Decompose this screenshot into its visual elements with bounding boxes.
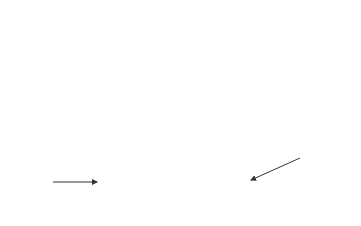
max-arrow: [251, 158, 300, 180]
arrows: [0, 0, 361, 226]
